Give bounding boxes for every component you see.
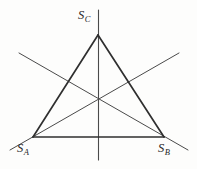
vertex-label-sc: SC [78, 9, 90, 22]
vertex-label-sa: SA [17, 142, 29, 155]
vertex-label-sa-base: S [17, 141, 23, 155]
vertex-label-sc-base: S [78, 8, 84, 22]
geometry-figure: SC SA SB [0, 0, 197, 169]
vertex-label-sb: SB [158, 142, 170, 155]
vertex-label-sb-subscript: B [165, 147, 170, 157]
vertex-label-sa-subscript: A [24, 147, 29, 157]
vertex-label-sc-subscript: C [85, 14, 91, 24]
vertex-label-sb-base: S [158, 141, 164, 155]
